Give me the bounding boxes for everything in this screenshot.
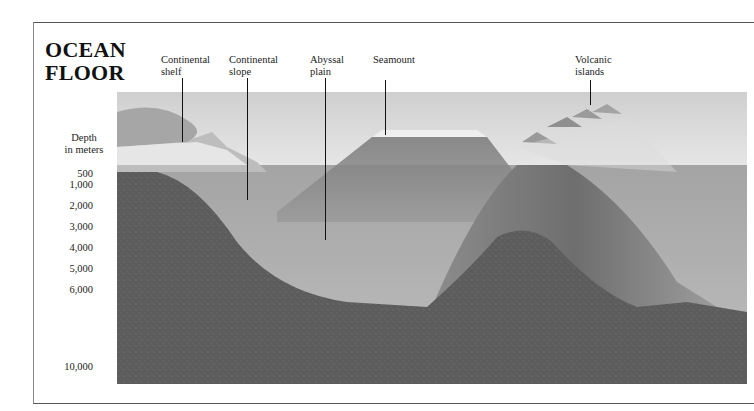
depth-tick: 5,000 [69,263,93,274]
ocean-floor-illustration [117,92,747,384]
seamount-leader [385,80,386,135]
depth-tick: 500 [77,168,93,179]
depth-tick: 10,000 [64,361,93,372]
label-abyssal-plain: Abyssal plain [310,54,344,77]
label-continental-shelf: Continental shelf [161,54,210,77]
continental-shelf-leader [182,78,183,142]
title-line-1: OCEAN [45,38,126,61]
depth-axis-title: Depth in meters [60,132,108,155]
title-line-2: FLOOR [45,61,126,84]
depth-tick: 4,000 [69,242,93,253]
volcanic-islands-leader [590,80,591,105]
label-seamount: Seamount [373,54,415,66]
depth-tick: 6,000 [69,284,93,295]
label-continental-slope: Continental slope [229,54,278,77]
label-volcanic-islands: Volcanic islands [575,54,612,77]
depth-tick: 2,000 [69,200,93,211]
abyssal-plain-leader [325,78,326,240]
depth-tick: 1,000 [69,179,93,190]
depth-tick: 3,000 [69,221,93,232]
diagram-title: OCEAN FLOOR [45,38,126,84]
continental-slope-leader [247,78,248,200]
